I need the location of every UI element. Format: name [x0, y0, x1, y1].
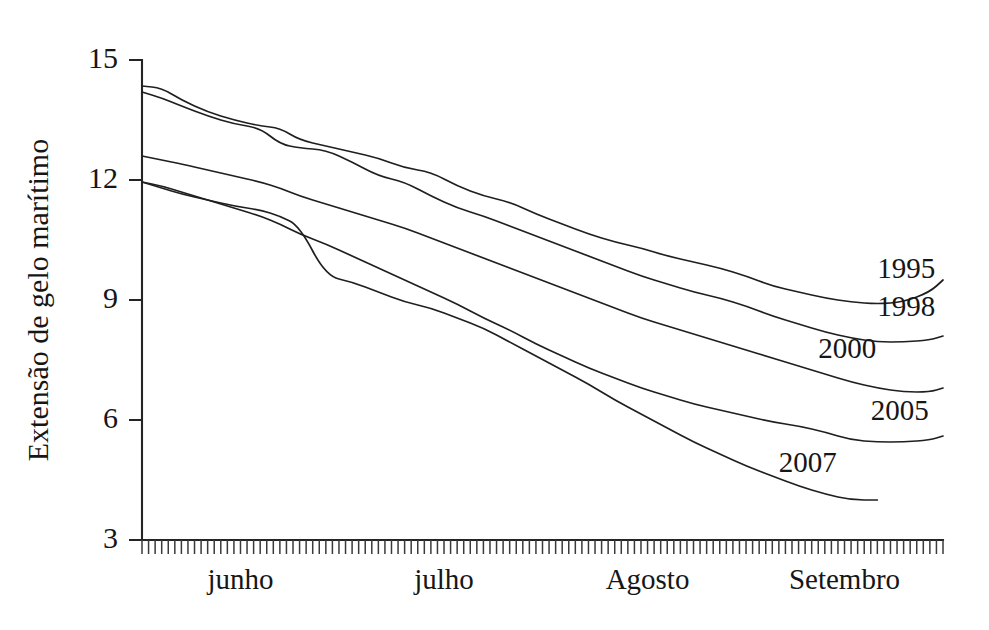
x-axis-tick-labels: junhojulhoAgostoSetembro [206, 563, 900, 595]
series-line-2007 [142, 182, 877, 500]
series-label-2000: 2000 [818, 332, 876, 364]
x-tick-label: junho [206, 563, 273, 595]
y-tick-label: 3 [103, 521, 118, 554]
chart-page: 3691215 junhojulhoAgostoSetembro 1995199… [0, 0, 989, 630]
y-axis-title: Extensão de gelo marítimo [21, 139, 54, 461]
series-line-2005 [142, 182, 943, 442]
series-line-1995 [142, 86, 943, 304]
y-axis-title-text: Extensão de gelo marítimo [21, 139, 54, 461]
y-axis-tick-labels: 3691215 [88, 41, 118, 554]
y-tick-label: 15 [88, 41, 118, 74]
x-tick-label: julho [413, 563, 474, 595]
sea-ice-extent-line-chart: 3691215 junhojulhoAgostoSetembro 1995199… [0, 0, 989, 630]
y-axis-ticks [129, 60, 142, 540]
series-label-2007: 2007 [779, 446, 837, 478]
x-axis-ticks [142, 540, 943, 554]
series-label-1998: 1998 [877, 290, 935, 322]
data-series-lines [142, 86, 943, 500]
y-tick-label: 6 [103, 401, 118, 434]
y-tick-label: 9 [103, 281, 118, 314]
x-tick-label: Setembro [789, 563, 900, 595]
series-inline-labels: 19951998200020052007 [779, 252, 935, 478]
series-label-2005: 2005 [871, 394, 929, 426]
x-tick-label: Agosto [606, 563, 690, 595]
series-label-1995: 1995 [877, 252, 935, 284]
y-tick-label: 12 [88, 161, 118, 194]
